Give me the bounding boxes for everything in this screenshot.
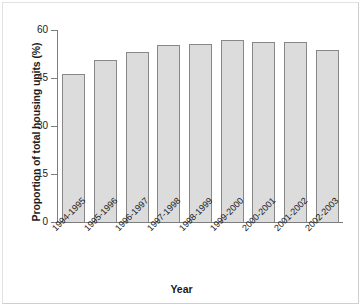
y-axis-title: Proportion of total housing units (%): [30, 22, 42, 242]
bar: [252, 42, 275, 222]
x-axis-title: Year: [0, 283, 363, 295]
bar: [284, 42, 307, 222]
bar: [221, 40, 244, 222]
y-axis-tick-label: 45: [2, 72, 48, 83]
bar: [316, 50, 339, 222]
y-axis-tick-label: 60: [2, 24, 48, 35]
y-axis-tick-label: 15: [2, 168, 48, 179]
bar-chart-figure: Proportion of total housing units (%) 01…: [0, 0, 363, 308]
y-axis-tick-label: 30: [2, 120, 48, 131]
y-axis-tick-label: 0: [2, 216, 48, 227]
plot-area: [57, 30, 342, 222]
bar: [189, 44, 212, 222]
bar: [157, 45, 180, 222]
